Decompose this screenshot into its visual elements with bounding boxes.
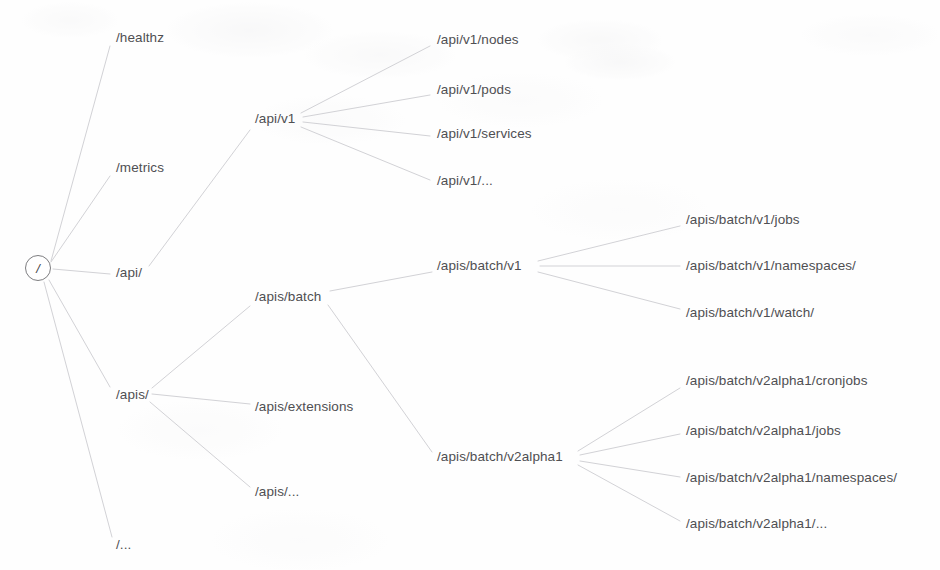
tree-edge (301, 127, 430, 180)
tree-node-batch-v1-watch[interactable]: /apis/batch/v1/watch/ (686, 306, 814, 320)
diagram-canvas: //healthz/metrics/api//apis//.../api/v1/… (0, 0, 940, 570)
tree-node-api-v1[interactable]: /api/v1 (255, 112, 295, 126)
tree-node-api-v1-ellipsis[interactable]: /api/v1/... (437, 174, 493, 188)
tree-node-apis-ellipsis[interactable]: /apis/... (255, 485, 299, 499)
tree-edge (152, 306, 250, 388)
tree-node-root-ellipsis[interactable]: /... (116, 538, 131, 552)
tree-edge (580, 434, 680, 455)
tree-node-v2a1-ns[interactable]: /apis/batch/v2alpha1/namespaces/ (686, 471, 897, 485)
tree-node-api-v1-pods[interactable]: /api/v1/pods (437, 83, 511, 97)
tree-node-batch-v1[interactable]: /apis/batch/v1 (437, 259, 522, 273)
tree-edge (330, 272, 432, 291)
tree-node-batch-v1-ns[interactable]: /apis/batch/v1/namespaces/ (686, 259, 856, 273)
tree-node-api[interactable]: /api/ (116, 266, 142, 280)
tree-edge (150, 402, 250, 487)
tree-edge (51, 46, 110, 261)
tree-node-v2a1-ellipsis[interactable]: /apis/batch/v2alpha1/... (686, 517, 827, 531)
tree-edge (538, 226, 680, 261)
tree-node-root[interactable]: / (25, 255, 51, 281)
tree-node-v2a1-jobs[interactable]: /apis/batch/v2alpha1/jobs (686, 424, 841, 438)
tree-node-v2a1-cronjobs[interactable]: /apis/batch/v2alpha1/cronjobs (686, 374, 868, 388)
tree-edge (44, 282, 112, 537)
tree-node-api-v1-services[interactable]: /api/v1/services (437, 127, 532, 141)
tree-edge (51, 176, 110, 262)
tree-edge (301, 46, 430, 113)
tree-edge (303, 122, 430, 136)
tree-node-metrics[interactable]: /metrics (116, 161, 164, 175)
tree-edge (152, 394, 250, 404)
tree-node-batch-v1-jobs[interactable]: /apis/batch/v1/jobs (686, 213, 800, 227)
tree-node-api-v1-nodes[interactable]: /api/v1/nodes (437, 33, 519, 47)
root-node-label: / (36, 262, 40, 275)
tree-edge (328, 305, 432, 452)
tree-edge (53, 269, 110, 274)
tree-node-batch-v2alpha1[interactable]: /apis/batch/v2alpha1 (437, 450, 563, 464)
tree-edge (578, 465, 680, 521)
tree-node-apis-extensions[interactable]: /apis/extensions (255, 400, 353, 414)
tree-node-apis[interactable]: /apis/ (116, 388, 149, 402)
tree-node-healthz[interactable]: /healthz (116, 31, 164, 45)
tree-edge (303, 95, 430, 117)
tree-edge (538, 272, 680, 309)
tree-edge (578, 388, 680, 451)
tree-edge (149, 130, 250, 266)
tree-node-apis-batch[interactable]: /apis/batch (255, 290, 321, 304)
